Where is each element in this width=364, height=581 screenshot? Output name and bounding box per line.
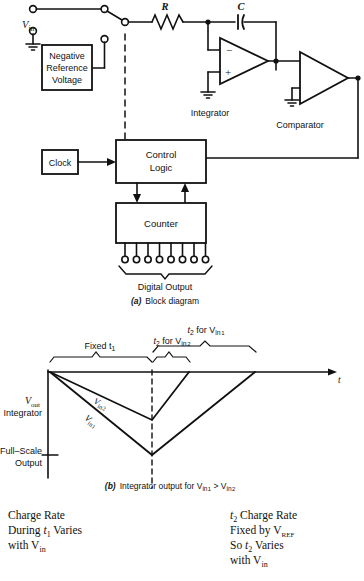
switch-common-pole[interactable] (122, 19, 129, 26)
integrator-plus-sign: + (225, 66, 231, 78)
switch-contact-b[interactable] (101, 36, 108, 43)
integrator-axis-label: Integrator (3, 408, 42, 418)
block-diagram-caption: (a)Block diagram (131, 296, 199, 306)
vin-terminal-top[interactable] (30, 6, 37, 13)
reference-block-line2: Reference (46, 63, 88, 73)
waveform-caption: (b)Integrator output for Vin1 > Vin2 (105, 481, 235, 492)
full-scale-line2: Output (15, 458, 43, 468)
t-axis-label: t (338, 375, 341, 385)
full-scale-line1: Full–Scale (0, 446, 42, 456)
integrator-minus-sign: − (226, 44, 232, 56)
digital-output-label: Digital Output (138, 282, 193, 292)
counter-label: Counter (144, 218, 178, 229)
control-logic-line2: Logic (150, 162, 173, 173)
resistor-label: R (160, 1, 168, 12)
fixed-t1-label: Fixed t1 (85, 341, 116, 352)
comparator-label: Comparator (276, 120, 324, 130)
dual-slope-adc-figure: Vin Negative Reference Voltage R C − + I… (0, 0, 364, 581)
clock-label: Clock (49, 158, 72, 168)
reference-block-line1: Negative (49, 51, 85, 61)
reference-block-line3: Voltage (52, 75, 82, 85)
control-logic-line1: Control (146, 149, 177, 160)
capacitor-label: C (237, 1, 245, 12)
integrator-label: Integrator (191, 108, 230, 118)
note-left-line1: Charge Rate (8, 509, 65, 522)
